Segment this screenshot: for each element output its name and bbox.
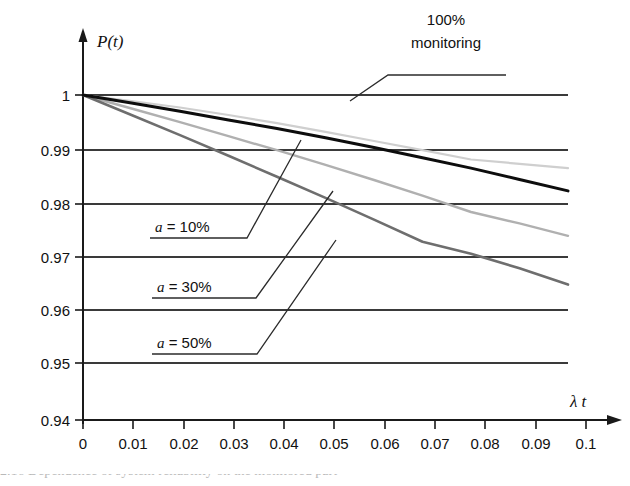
callout-a50-rest: = 50% xyxy=(165,334,212,351)
x-tick-label: 0.07 xyxy=(420,435,449,452)
series-line-a30 xyxy=(83,95,568,236)
x-axis-ticks xyxy=(83,420,586,429)
figure-caption-text: 2.16 Dependence of system reliability on… xyxy=(0,474,337,477)
y-axis-arrowhead xyxy=(79,28,88,42)
x-tick-label: 0.02 xyxy=(169,435,198,452)
x-axis-title: λ t xyxy=(569,392,588,411)
x-tick-label: 0.06 xyxy=(370,435,399,452)
callout-a10-var: a xyxy=(155,219,163,235)
y-tick-label: 0.98 xyxy=(41,196,70,213)
series-line-a10 xyxy=(83,95,568,191)
x-axis-arrowhead xyxy=(607,415,622,425)
x-axis xyxy=(83,415,622,429)
callout-monitoring-line1: 100% xyxy=(427,11,465,28)
y-tick-label: 0.95 xyxy=(41,355,70,372)
x-tick-label: 0.05 xyxy=(319,435,348,452)
callout-a30-var: a xyxy=(157,279,165,295)
callout-a10: a = 10% xyxy=(155,218,210,235)
leader-monitoring xyxy=(350,75,506,101)
y-axis xyxy=(75,28,88,424)
x-tick-label: 0 xyxy=(79,435,87,452)
y-axis-ticks xyxy=(75,95,83,420)
y-tick-labels: 1 0.99 0.98 0.97 0.96 0.95 0.94 xyxy=(41,87,70,429)
figure-container: 1 0.99 0.98 0.97 0.96 0.95 0.94 0 0.01 0… xyxy=(0,0,630,486)
x-tick-label: 0.1 xyxy=(576,435,597,452)
x-tick-label: 0.01 xyxy=(118,435,147,452)
x-tick-label: 0.03 xyxy=(219,435,248,452)
figure-caption-fragment: 2.16 Dependence of system reliability on… xyxy=(0,474,630,486)
y-tick-label: 0.94 xyxy=(41,412,70,429)
y-tick-label: 0.96 xyxy=(41,302,70,319)
x-tick-label: 0.08 xyxy=(470,435,499,452)
x-tick-labels: 0 0.01 0.02 0.03 0.04 0.05 0.06 0.07 0.0… xyxy=(79,435,597,452)
callout-a10-rest: = 10% xyxy=(163,218,210,235)
callout-a50: a = 50% xyxy=(157,334,212,351)
callout-a30: a = 30% xyxy=(157,278,212,295)
callout-a30-rest: = 30% xyxy=(165,278,212,295)
reliability-line-chart: 1 0.99 0.98 0.97 0.96 0.95 0.94 0 0.01 0… xyxy=(0,0,630,486)
callout-monitoring-line2: monitoring xyxy=(411,34,481,51)
callout-labels: 100% monitoring a = 10% a = 30% a = 50% xyxy=(155,11,481,351)
y-axis-title: P(t) xyxy=(96,32,124,51)
x-tick-label: 0.04 xyxy=(269,435,298,452)
y-tick-label: 0.97 xyxy=(41,249,70,266)
x-tick-label: 0.09 xyxy=(521,435,550,452)
y-tick-label: 1 xyxy=(62,87,70,104)
y-tick-label: 0.99 xyxy=(41,142,70,159)
callout-a50-var: a xyxy=(157,335,165,351)
